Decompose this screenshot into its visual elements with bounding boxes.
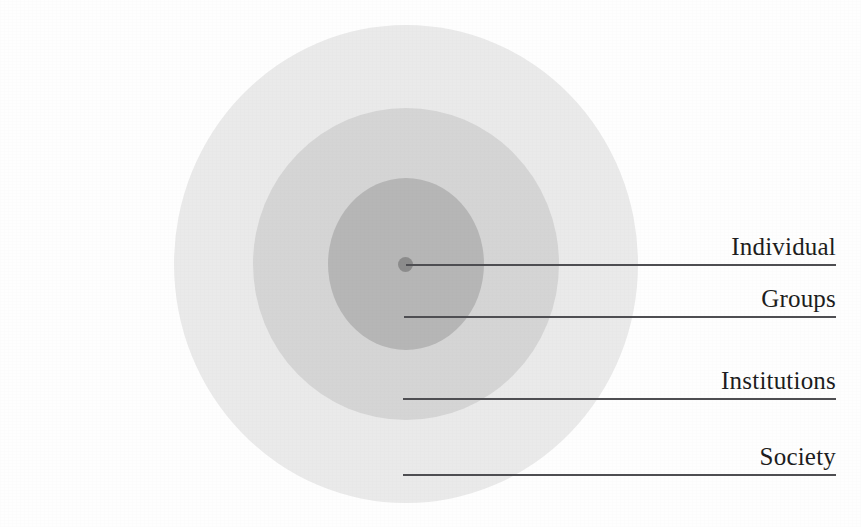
- leader-line-institutions: [403, 398, 836, 400]
- label-groups: Groups: [761, 286, 836, 311]
- leader-line-groups: [404, 316, 836, 318]
- social-structure-diagram: SOCIAL STRUCTURE Individual Groups Insti…: [0, 0, 861, 527]
- figure-title-cropped: SOCIAL STRUCTURE: [0, 0, 861, 4]
- label-society: Society: [760, 444, 836, 469]
- label-individual: Individual: [731, 234, 836, 259]
- label-institutions: Institutions: [721, 368, 836, 393]
- leader-line-society: [403, 474, 836, 476]
- leader-line-individual: [406, 264, 836, 266]
